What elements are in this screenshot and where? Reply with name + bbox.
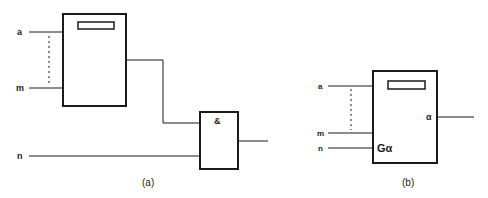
label-input-m-b: m xyxy=(317,129,324,138)
and-gate-label: & xyxy=(214,116,221,126)
label-input-n-b: n xyxy=(318,144,323,153)
label-input-n: n xyxy=(17,151,23,161)
caption-a: (a) xyxy=(142,177,154,188)
block-a-output-wire xyxy=(126,60,200,123)
block-b-indicator xyxy=(388,81,425,89)
label-input-a: a xyxy=(17,27,23,37)
diagram-canvas: a m n & (a) a m n Gα α (b) xyxy=(0,0,488,198)
gate-label-g-alpha: Gα xyxy=(377,142,393,154)
block-a xyxy=(63,14,126,106)
caption-b: (b) xyxy=(402,177,414,188)
diagram-b: a m n Gα α (b) xyxy=(317,71,474,188)
output-label-alpha: α xyxy=(426,112,432,122)
block-a-indicator xyxy=(78,22,114,29)
diagram-a: a m n & (a) xyxy=(16,14,268,188)
label-input-a-b: a xyxy=(318,82,323,91)
label-input-m: m xyxy=(16,83,24,93)
